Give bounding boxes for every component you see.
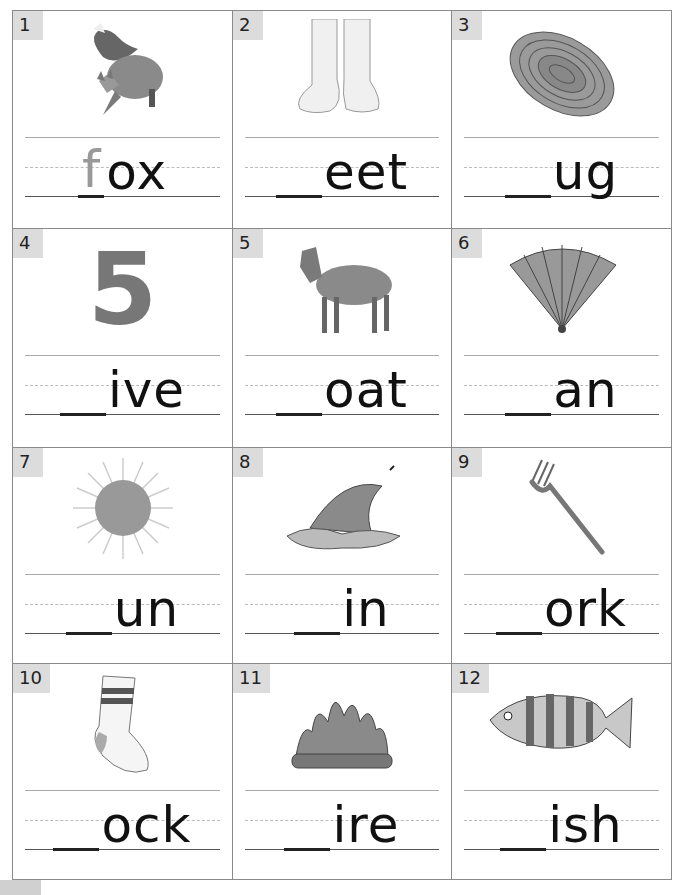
- cell-number: 9: [452, 448, 482, 477]
- cell-goat: 5 oat: [233, 229, 452, 448]
- rug-icon: [502, 19, 622, 124]
- word: ork: [464, 582, 659, 634]
- handwriting-lines: ire: [245, 790, 439, 850]
- number-five-icon: 5: [63, 237, 183, 342]
- handwriting-lines: ug: [464, 137, 659, 197]
- handwriting-lines: an: [464, 355, 659, 415]
- cell-sun: 7 un: [13, 448, 233, 664]
- cell-number: 10: [13, 664, 50, 693]
- cell-number: 8: [233, 448, 263, 477]
- answer-blank[interactable]: [66, 632, 112, 635]
- shark-fin-icon: [282, 456, 402, 561]
- handwriting-lines: ock: [25, 790, 220, 850]
- cell-fish: 12 ish: [452, 664, 671, 879]
- fan-icon: [502, 237, 622, 342]
- handwriting-lines: un: [25, 574, 220, 634]
- word-ending: ive: [108, 365, 185, 415]
- answer-blank[interactable]: [500, 848, 546, 851]
- cell-number: 7: [13, 448, 43, 477]
- cell-fork: 9 ork: [452, 448, 671, 664]
- handwriting-lines: in: [245, 574, 439, 634]
- cell-fire: 11 ire: [233, 664, 452, 879]
- answer-blank[interactable]: [60, 413, 106, 416]
- word: ug: [464, 145, 659, 197]
- worksheet-grid: 1 f ox 2 eet: [12, 10, 672, 880]
- fish-icon: [482, 672, 642, 777]
- cell-number: 11: [233, 664, 270, 693]
- handwriting-lines: ork: [464, 574, 659, 634]
- cell-number: 5: [233, 229, 263, 258]
- handwriting-lines: oat: [245, 355, 439, 415]
- cell-number: 4: [13, 229, 43, 258]
- word-ending: ox: [106, 147, 167, 197]
- word: ish: [464, 798, 659, 850]
- answer-blank[interactable]: f: [78, 143, 104, 198]
- page-corner-tab: [0, 880, 41, 895]
- feet-icon: [282, 19, 402, 124]
- answer-blank[interactable]: [505, 195, 551, 198]
- answer-blank[interactable]: [53, 848, 99, 851]
- word-ending: oat: [324, 365, 408, 415]
- cell-fan: 6 an: [452, 229, 671, 448]
- word-ending: ock: [101, 800, 191, 850]
- cell-rug: 3 ug: [452, 11, 671, 229]
- word: in: [245, 582, 439, 634]
- word-ending: in: [342, 584, 390, 634]
- answer-blank[interactable]: [496, 632, 542, 635]
- cell-feet: 2 eet: [233, 11, 452, 229]
- answer-blank[interactable]: [276, 195, 322, 198]
- sock-icon: [63, 672, 183, 777]
- cell-fox: 1 f ox: [13, 11, 233, 229]
- word: eet: [245, 145, 439, 197]
- word: ire: [245, 798, 439, 850]
- cell-number: 6: [452, 229, 482, 258]
- answer-blank[interactable]: [505, 413, 551, 416]
- word-ending: ish: [548, 800, 623, 850]
- word: ock: [25, 798, 220, 850]
- cell-number: 3: [452, 11, 482, 40]
- word-ending: an: [553, 365, 617, 415]
- word-ending: eet: [324, 147, 408, 197]
- answer-blank[interactable]: [284, 848, 330, 851]
- handwriting-lines: ive: [25, 355, 220, 415]
- word-ending: un: [114, 584, 179, 634]
- sun-icon: [63, 456, 183, 561]
- word: f ox: [25, 145, 220, 197]
- fork-icon: [502, 456, 622, 561]
- cell-five: 4 5 ive: [13, 229, 233, 448]
- goat-icon: [282, 237, 402, 342]
- handwriting-lines: eet: [245, 137, 439, 197]
- fire-icon: [282, 672, 402, 777]
- fox-icon: [63, 19, 183, 124]
- word: ive: [25, 363, 220, 415]
- handwriting-lines: ish: [464, 790, 659, 850]
- word: un: [25, 582, 220, 634]
- cell-sock: 10 ock: [13, 664, 233, 879]
- word-ending: ire: [332, 800, 399, 850]
- handwriting-lines: f ox: [25, 137, 220, 197]
- word: an: [464, 363, 659, 415]
- word: oat: [245, 363, 439, 415]
- cell-number: 1: [13, 11, 43, 40]
- word-ending: ork: [544, 584, 627, 634]
- word-ending: ug: [553, 147, 618, 197]
- answer-blank[interactable]: [294, 632, 340, 635]
- answer-blank[interactable]: [276, 413, 322, 416]
- cell-fin: 8 in: [233, 448, 452, 664]
- cell-number: 2: [233, 11, 263, 40]
